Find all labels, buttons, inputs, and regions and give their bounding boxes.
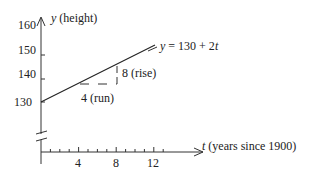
y-tick-140: 140 (18, 68, 36, 80)
y-axis-label: y (height) (51, 12, 97, 24)
equation-mid: = 130 + 2 (165, 39, 215, 53)
x-axis-desc: (years since 1900) (205, 139, 296, 153)
rise-label: 8 (rise) (122, 67, 156, 79)
equation-label: y = 130 + 2t (160, 40, 218, 52)
y-axis-desc: (height) (56, 11, 97, 25)
x-tick-4: 4 (75, 157, 81, 169)
run-label: 4 (run) (81, 92, 114, 104)
equation-var: t (215, 39, 218, 53)
x-axis-label: t (years since 1900) (202, 140, 296, 152)
y-tick-150: 150 (18, 44, 36, 56)
x-tick-12: 12 (147, 157, 159, 169)
y-tick-130: 130 (14, 96, 32, 108)
x-tick-8: 8 (113, 157, 119, 169)
x-major-ticks (79, 147, 154, 152)
y-tick-160: 160 (18, 19, 36, 31)
